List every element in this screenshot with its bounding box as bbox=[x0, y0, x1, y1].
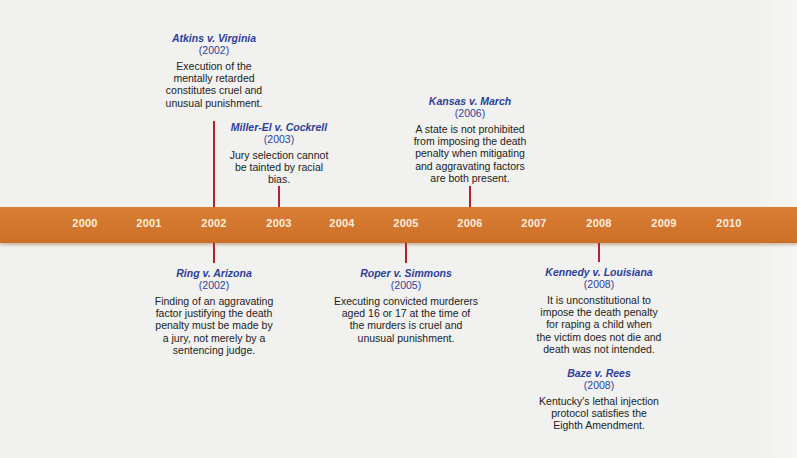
desc-line: Eighth Amendment. bbox=[524, 419, 674, 431]
desc-line: penalty must be made by bbox=[139, 319, 289, 331]
desc-line: protocol satisfies the bbox=[524, 407, 674, 419]
event-title: Miller-El v. Cockrell bbox=[209, 121, 349, 133]
year-label-2004: 2004 bbox=[317, 217, 367, 229]
event-kansas-v-march: Kansas v. March (2006) A state is not pr… bbox=[395, 95, 545, 184]
event-title: Roper v. Simmons bbox=[321, 267, 491, 279]
event-year: (2005) bbox=[321, 279, 491, 291]
connector-ring-2002 bbox=[213, 242, 215, 263]
event-title: Atkins v. Virginia bbox=[144, 32, 284, 44]
desc-line: for raping a child when bbox=[519, 318, 679, 330]
desc-line: A state is not prohibited bbox=[395, 123, 545, 135]
connector-miller-el-2003 bbox=[278, 186, 280, 208]
event-year: (2008) bbox=[519, 278, 679, 290]
desc-line: death was not intended. bbox=[519, 343, 679, 355]
year-label-2009: 2009 bbox=[639, 217, 689, 229]
desc-line: sentencing judge. bbox=[139, 344, 289, 356]
event-title: Ring v. Arizona bbox=[139, 267, 289, 279]
desc-line: mentally retarded bbox=[144, 72, 284, 84]
desc-line: are both present. bbox=[395, 172, 545, 184]
event-roper-v-simmons: Roper v. Simmons (2005) Executing convic… bbox=[321, 267, 491, 344]
year-label-2003: 2003 bbox=[254, 217, 304, 229]
event-miller-el-v-cockrell: Miller-El v. Cockrell (2003) Jury select… bbox=[209, 121, 349, 186]
desc-line: unusual punishment. bbox=[321, 332, 491, 344]
desc-line: from imposing the death bbox=[395, 135, 545, 147]
year-label-2001: 2001 bbox=[124, 217, 174, 229]
event-description: Finding of an aggravating factor justify… bbox=[139, 295, 289, 356]
event-year: (2008) bbox=[524, 379, 674, 391]
event-description: Jury selection cannot be tainted by raci… bbox=[209, 149, 349, 186]
event-year: (2006) bbox=[395, 107, 545, 119]
desc-line: Executing convicted murderers bbox=[321, 295, 491, 307]
desc-line: Kentucky's lethal injection bbox=[524, 395, 674, 407]
event-description: Executing convicted murderers aged 16 or… bbox=[321, 295, 491, 344]
event-year: (2003) bbox=[209, 133, 349, 145]
desc-line: a jury, not merely by a bbox=[139, 332, 289, 344]
desc-line: Finding of an aggravating bbox=[139, 295, 289, 307]
desc-line: unusual punishment. bbox=[144, 97, 284, 109]
event-description: Execution of the mentally retarded const… bbox=[144, 60, 284, 109]
desc-line: It is unconstitutional to bbox=[519, 294, 679, 306]
year-label-2005: 2005 bbox=[381, 217, 431, 229]
desc-line: be tainted by racial bbox=[209, 161, 349, 173]
connector-kennedy-2008 bbox=[598, 242, 600, 262]
year-label-2007: 2007 bbox=[509, 217, 559, 229]
year-label-2002: 2002 bbox=[189, 217, 239, 229]
event-description: Kentucky's lethal injection protocol sat… bbox=[524, 395, 674, 432]
event-title: Kennedy v. Louisiana bbox=[519, 266, 679, 278]
year-label-2000: 2000 bbox=[60, 217, 110, 229]
event-baze-v-rees: Baze v. Rees (2008) Kentucky's lethal in… bbox=[524, 367, 674, 432]
event-kennedy-v-louisiana: Kennedy v. Louisiana (2008) It is uncons… bbox=[519, 266, 679, 355]
event-ring-v-arizona: Ring v. Arizona (2002) Finding of an agg… bbox=[139, 267, 289, 356]
event-title: Kansas v. March bbox=[395, 95, 545, 107]
year-label-2008: 2008 bbox=[574, 217, 624, 229]
event-atkins-v-virginia: Atkins v. Virginia (2002) Execution of t… bbox=[144, 32, 284, 109]
connector-kansas-2006 bbox=[469, 186, 471, 208]
desc-line: factor justifying the death bbox=[139, 307, 289, 319]
desc-line: bias. bbox=[209, 173, 349, 185]
desc-line: and aggravating factors bbox=[395, 160, 545, 172]
event-title: Baze v. Rees bbox=[524, 367, 674, 379]
year-label-2006: 2006 bbox=[445, 217, 495, 229]
event-description: A state is not prohibited from imposing … bbox=[395, 123, 545, 184]
connector-roper-2005 bbox=[405, 242, 407, 263]
desc-line: the victim does not die and bbox=[519, 331, 679, 343]
event-description: It is unconstitutional to impose the dea… bbox=[519, 294, 679, 355]
desc-line: Jury selection cannot bbox=[209, 149, 349, 161]
desc-line: aged 16 or 17 at the time of bbox=[321, 307, 491, 319]
desc-line: the murders is cruel and bbox=[321, 319, 491, 331]
desc-line: penalty when mitigating bbox=[395, 147, 545, 159]
event-year: (2002) bbox=[139, 279, 289, 291]
year-label-2010: 2010 bbox=[704, 217, 754, 229]
desc-line: impose the death penalty bbox=[519, 306, 679, 318]
desc-line: constitutes cruel and bbox=[144, 84, 284, 96]
desc-line: Execution of the bbox=[144, 60, 284, 72]
event-year: (2002) bbox=[144, 44, 284, 56]
